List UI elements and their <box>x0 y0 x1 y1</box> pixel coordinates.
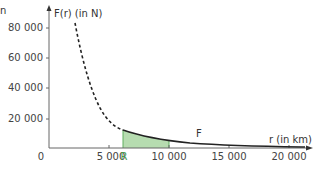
x-tick-label: 10 000 <box>152 151 187 162</box>
chart: n F(r) (in N) r (in km) F 20 000 40 000 … <box>0 0 317 179</box>
y-tick-label: 20 000 <box>8 113 43 124</box>
y-tick-label: 80 000 <box>8 22 43 33</box>
curve-dashed <box>75 23 123 130</box>
x-tick-label: 15 000 <box>212 151 247 162</box>
x-axis-arrow-icon <box>306 146 313 151</box>
y-tick-label: 60 000 <box>8 52 43 63</box>
x-tick-label: 20 000 <box>272 151 307 162</box>
y-axis-label: F(r) (in N) <box>54 8 103 19</box>
r-label: R <box>121 151 128 162</box>
curve-label: F <box>196 128 202 139</box>
y-axis-arrow-icon <box>47 5 52 11</box>
origin-label: 0 <box>38 151 44 162</box>
y-tick-label: 40 000 <box>8 82 43 93</box>
x-axis-label: r (in km) <box>269 134 312 145</box>
left-fragment-label: n <box>0 5 6 16</box>
